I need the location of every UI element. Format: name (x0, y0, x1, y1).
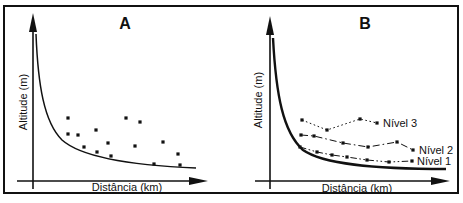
scatter-point (106, 141, 109, 144)
series-point (299, 133, 302, 136)
panel-a-title: A (119, 15, 131, 32)
scatter-point (161, 140, 164, 143)
scatter-point (94, 128, 97, 131)
series-point (365, 158, 368, 161)
scatter-point (82, 145, 85, 148)
panel-a-x-axis-label: Distância (km) (92, 181, 162, 193)
panel-b-title: B (359, 15, 371, 32)
series-point (366, 145, 369, 148)
series-point (375, 121, 378, 124)
series-point (358, 117, 361, 120)
series-point (298, 145, 301, 148)
series-point (411, 148, 414, 151)
scatter-point (178, 163, 181, 166)
series-point (345, 155, 348, 158)
panel-b-x-axis-label: Distância (km) (322, 182, 392, 194)
scatter-point (124, 116, 127, 119)
series-point (387, 160, 390, 163)
panel-b-y-axis-label: Altitude (m) (252, 72, 264, 128)
series-label-n-vel-3: Nível 3 (383, 117, 417, 129)
figure-canvas: A Altitude (m) Distância (km) B (0, 0, 463, 203)
series-point (410, 159, 413, 162)
scatter-point (66, 116, 69, 119)
series-point (395, 140, 398, 143)
series-point (315, 150, 318, 153)
series-point (312, 134, 315, 137)
scatter-point (152, 162, 155, 165)
scatter-point (76, 133, 79, 136)
series-point (325, 128, 328, 131)
series-point (341, 141, 344, 144)
scatter-point (138, 120, 141, 123)
scatter-point (109, 154, 112, 157)
panel-a-y-axis-label: Altitude (m) (17, 74, 29, 130)
figure-frame (4, 6, 458, 193)
scatter-point (95, 150, 98, 153)
figure: A Altitude (m) Distância (km) B (0, 0, 463, 203)
scatter-point (133, 144, 136, 147)
series-label-n-vel-1: Nível 1 (417, 155, 451, 167)
scatter-point (66, 132, 69, 135)
series-point (330, 153, 333, 156)
scatter-point (176, 152, 179, 155)
series-point (300, 118, 303, 121)
